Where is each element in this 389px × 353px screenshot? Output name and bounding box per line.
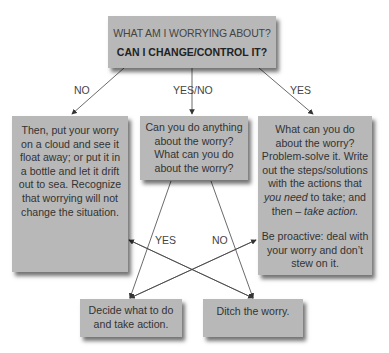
right-box-text-a: What can you do about the worry? Problem… [262, 123, 368, 189]
box-cannot-control: Then, put your worry on a cloud and see … [12, 116, 128, 272]
branch-label-no: NO [74, 84, 90, 96]
right-box-para2: Be proactive: deal with your worry and d… [261, 230, 369, 271]
box-ditch-worry: Ditch the worry. [203, 299, 303, 337]
box-maybe-control: Can you do anything about the worry? Wha… [140, 116, 248, 180]
worry-question: WHAT AM I WORRYING ABOUT? [108, 27, 276, 41]
bottom-left-text: Decide what to do and take action. [82, 304, 180, 331]
cross-label-no: NO [212, 234, 228, 246]
left-box-text: Then, put your worry on a cloud and see … [16, 124, 124, 219]
right-box-emphasis-take-action: take action. [304, 205, 358, 217]
box-decide-action: Decide what to do and take action. [80, 299, 182, 337]
middle-box-text: Can you do anything about the worry? Wha… [143, 121, 245, 175]
branch-label-yes: YES [290, 84, 311, 96]
bottom-right-text: Ditch the worry. [205, 305, 301, 319]
question-box-top: WHAT AM I WORRYING ABOUT? CAN I CHANGE/C… [108, 16, 276, 68]
box-can-control: What can you do about the worry? Problem… [258, 116, 372, 275]
branch-label-yes-no: YES/NO [173, 84, 213, 96]
right-box-emphasis-you-need: you need [264, 191, 308, 203]
control-question: CAN I CHANGE/CONTROL IT? [108, 46, 276, 60]
right-box-para1: What can you do about the worry? Problem… [261, 123, 369, 218]
cross-label-yes: YES [155, 234, 176, 246]
